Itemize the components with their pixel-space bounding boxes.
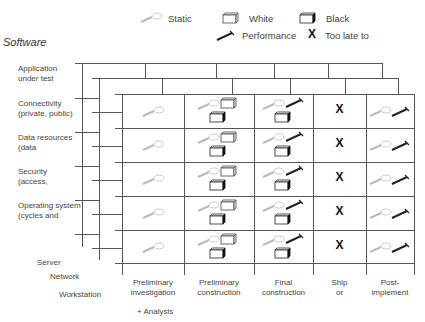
row-label-security-sub: (access, [18, 177, 48, 187]
legend-white-label: White [249, 14, 273, 24]
x-mark-icon: X [308, 29, 316, 39]
magnifier-icon [197, 201, 219, 213]
magnifier-icon [369, 106, 391, 118]
diagram-title: Software [3, 37, 46, 47]
row-label-security: Security [18, 167, 47, 177]
phase-preliminary-construction: Preliminaryconstruction [184, 278, 254, 298]
black-box-icon [274, 145, 292, 157]
magnifier-icon [142, 174, 164, 186]
white-box-icon [220, 233, 238, 245]
x-mark-icon: X [336, 172, 344, 182]
magnifier-icon [142, 242, 164, 254]
magnifier-icon [262, 201, 284, 213]
magnifier-icon [197, 235, 219, 247]
magnifier-icon [262, 235, 284, 247]
phase-post-implement: Post-implement [366, 278, 414, 298]
white-box-icon [222, 12, 240, 24]
black-box-icon [209, 111, 227, 123]
hammer-icon [216, 30, 236, 42]
magnifier-icon [142, 208, 164, 220]
row-label-operating-system-sub: (cycles and [18, 211, 58, 221]
hammer-icon [391, 242, 411, 254]
magnifier-icon [197, 99, 219, 111]
magnifier-icon [369, 242, 391, 254]
hammer-icon [285, 131, 305, 143]
magnifier-icon [262, 133, 284, 145]
magnifier-icon [197, 133, 219, 145]
magnifier-icon [369, 174, 391, 186]
white-box-icon [220, 97, 238, 109]
row-label-operating-system: Operating system [18, 201, 81, 211]
magnifier-icon [369, 208, 391, 220]
magnifier-icon [140, 12, 162, 24]
black-box-icon [274, 247, 292, 259]
depth-label-network: Network [50, 272, 79, 282]
hammer-icon [285, 199, 305, 211]
x-mark-icon: X [336, 104, 344, 114]
white-box-icon [220, 165, 238, 177]
row-label-connectivity-sub: (private, public) [18, 109, 73, 119]
legend-performance-label: Performance [242, 31, 296, 41]
depth-label-workstation: Workstation [59, 290, 101, 300]
magnifier-icon [262, 99, 284, 111]
phase-final-construction: Finalconstruction [254, 278, 313, 298]
black-box-icon [274, 213, 292, 225]
black-box-icon [274, 179, 292, 191]
black-box-icon [299, 12, 317, 24]
white-box-icon [220, 199, 238, 211]
row-label-application-sub: under test [18, 74, 54, 84]
hammer-icon [391, 174, 411, 186]
row-label-data-resources: Data resources [18, 133, 72, 143]
black-box-icon [274, 111, 292, 123]
magnifier-icon [369, 140, 391, 152]
black-box-icon [209, 213, 227, 225]
row-label-connectivity: Connectivity [18, 99, 62, 109]
row-label-application: Application [18, 64, 57, 74]
hammer-icon [391, 106, 411, 118]
magnifier-icon [142, 106, 164, 118]
black-box-icon [209, 179, 227, 191]
hammer-icon [285, 97, 305, 109]
white-box-icon [220, 131, 238, 143]
legend-black-label: Black [326, 14, 349, 24]
hammer-icon [285, 165, 305, 177]
hammer-icon [285, 233, 305, 245]
footnote-analysis: + Analysis [137, 307, 173, 317]
magnifier-icon [262, 167, 284, 179]
x-mark-icon: X [336, 240, 344, 250]
x-mark-icon: X [336, 138, 344, 148]
hammer-icon [391, 140, 411, 152]
hammer-icon [391, 208, 411, 220]
magnifier-icon [197, 167, 219, 179]
magnifier-icon [142, 140, 164, 152]
x-mark-icon: X [336, 206, 344, 216]
phase-preliminary-investigation: Preliminaryinvestigation [122, 278, 184, 298]
row-label-data-resources-sub: (data [18, 143, 36, 153]
black-box-icon [209, 145, 227, 157]
legend-static-label: Static [168, 14, 192, 24]
legend-too-late-label: Too late to [325, 31, 369, 41]
black-box-icon [209, 247, 227, 259]
depth-label-server: Server [37, 258, 61, 268]
phase-ship: Shipor [313, 278, 366, 298]
